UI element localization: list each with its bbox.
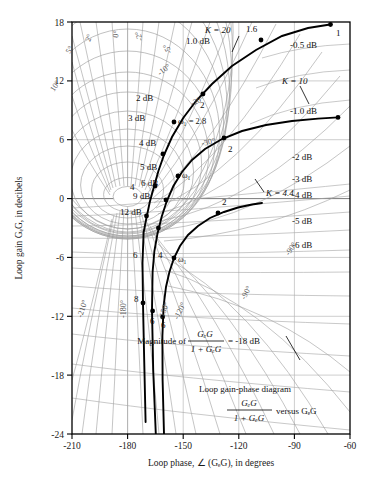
x-tick-4: -90	[288, 441, 301, 451]
marker-k10-w6	[150, 309, 155, 314]
k-label-44: K = 4.4	[265, 188, 294, 198]
phase-label-m180: -180°	[119, 300, 128, 318]
x-tick-1: -180	[119, 441, 137, 451]
marker-k10-w4	[164, 198, 169, 203]
k-label-20: K = 20	[204, 25, 231, 35]
x-tick-0: -210	[63, 441, 81, 451]
marker-k10-w2	[222, 136, 227, 141]
y-tick-7: -24	[51, 430, 64, 440]
point-label-4-k44: 6	[161, 320, 166, 330]
omega-label-k10: ω₁	[182, 170, 191, 180]
x-tick-5: -60	[344, 441, 357, 451]
marker-k10-w5	[156, 226, 161, 231]
legend-denominator: 1 + GₑG	[234, 413, 265, 423]
y-tick-2: 6	[59, 135, 64, 145]
marker-k44-w-omega1	[172, 256, 177, 261]
db-label-m3: -3 dB	[292, 174, 312, 184]
point-label-2-k44: 2	[222, 197, 227, 207]
y-tick-0: 18	[55, 18, 65, 28]
point-label-1: 1	[336, 28, 341, 38]
legend-tail: versus GₑG	[276, 406, 317, 416]
chart-svg: -210 -180 -150 -120 -90 -60 18 12 6 0 -6…	[0, 0, 370, 489]
magnitude-note-numerator: GₑG	[197, 329, 213, 339]
db-label-m0p5: -0.5 dB	[290, 40, 317, 50]
db-label-6: 6 dB	[141, 178, 158, 188]
phase-label-0: 0°	[111, 30, 121, 38]
point-label-6-k10: 6	[150, 316, 155, 326]
point-label-6-k20m: 6	[133, 250, 138, 260]
magnitude-note-prefix: Magnitude of	[137, 336, 186, 346]
marker-k20-w1p6	[259, 38, 264, 43]
legend-title: Loop gain-phase diagram	[199, 384, 291, 394]
db-label-m5: -5 dB	[292, 216, 312, 226]
db-label-12: 12 dB	[120, 207, 142, 217]
marker-k20-w3	[161, 152, 166, 157]
magnitude-note-value: = -18 dB	[228, 336, 260, 346]
point-label-2-k20: 2	[200, 100, 205, 110]
db-label-m1p0: -1.0 dB	[290, 106, 317, 116]
legend-numerator: GₑG	[241, 398, 257, 408]
point-label-8-k20: 8	[134, 294, 139, 304]
point-label-4-k10m: 4	[158, 250, 163, 260]
marker-k20-w2p8	[172, 120, 177, 125]
marker-k44-w2	[216, 211, 221, 216]
point-label-1p6: 1.6	[246, 24, 258, 34]
magnitude-note-denominator: 1 + GₑG	[191, 344, 222, 354]
omega-label-k20: ω₁ = 2.8	[178, 116, 206, 126]
x-axis-title: Loop phase, ∠ (GₑG), in degrees	[148, 458, 274, 469]
y-axis-title: Loop gain GₑG, in decibels	[14, 176, 24, 279]
db-label-4: 4 dB	[139, 138, 156, 148]
y-tick-3: 0	[59, 194, 64, 204]
db-label-m4: -4 dB	[292, 190, 312, 200]
marker-k10-w-omega1	[176, 174, 181, 179]
marker-k20-w6	[144, 214, 149, 219]
point-label-2-k10: 2	[228, 144, 233, 154]
db-label-5: 5 dB	[140, 162, 157, 172]
k-label-10: K = 10	[281, 76, 308, 86]
y-tick-6: -18	[51, 371, 64, 381]
y-tick-5: -12	[51, 312, 64, 322]
marker-k20-w1	[328, 22, 333, 27]
x-tick-3: -120	[230, 441, 248, 451]
x-tick-2: -150	[174, 441, 192, 451]
point-label-4-k20u: 4	[130, 182, 135, 192]
db-label-2: 2 dB	[136, 93, 153, 103]
y-tick-4: -6	[56, 253, 64, 263]
omega-label-k44: ω₁	[178, 254, 187, 264]
marker-k20-w8	[141, 301, 146, 306]
db-label-9: 9 dB	[133, 191, 150, 201]
db-label-3: 3 dB	[128, 113, 145, 123]
db-label-1p0: 1.0 dB	[186, 36, 210, 46]
nichols-chart-figure: -210 -180 -150 -120 -90 -60 18 12 6 0 -6…	[0, 0, 370, 489]
db-label-m2: -2 dB	[292, 152, 312, 162]
marker-k10-w1	[336, 115, 341, 120]
